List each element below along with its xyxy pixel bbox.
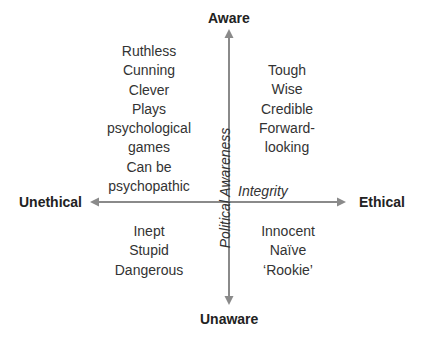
- quadrant-top-right: Tough Wise Credible Forward- looking: [217, 61, 357, 157]
- trait-text: Dangerous: [79, 261, 219, 280]
- trait-text: looking: [217, 138, 357, 157]
- trait-text: Cunning: [79, 61, 219, 80]
- trait-text: Ruthless: [79, 42, 219, 61]
- trait-text: psychopathic: [79, 177, 219, 196]
- pole-aware: Aware: [208, 10, 250, 26]
- trait-text: Stupid: [79, 241, 219, 260]
- left-arrow-icon: [90, 198, 99, 207]
- trait-text: Naïve: [218, 241, 358, 260]
- trait-text: Plays: [79, 100, 219, 119]
- down-arrow-icon: [225, 296, 234, 305]
- pole-ethical: Ethical: [359, 194, 405, 210]
- quadrant-bottom-right: Innocent Naïve ‘Rookie’: [218, 222, 358, 280]
- trait-text: Credible: [217, 100, 357, 119]
- quadrant-bottom-left: Inept Stupid Dangerous: [79, 222, 219, 280]
- trait-text: Inept: [79, 222, 219, 241]
- trait-text: Clever: [79, 81, 219, 100]
- trait-text: games: [79, 138, 219, 157]
- trait-text: Innocent: [218, 222, 358, 241]
- trait-text: psychological: [79, 119, 219, 138]
- trait-text: Forward-: [217, 119, 357, 138]
- up-arrow-icon: [225, 29, 234, 38]
- trait-text: Can be: [79, 158, 219, 177]
- trait-text: ‘Rookie’: [218, 261, 358, 280]
- axis-label-integrity: Integrity: [238, 183, 288, 199]
- right-arrow-icon: [337, 198, 346, 207]
- quadrant-top-left: Ruthless Cunning Clever Plays psychologi…: [79, 42, 219, 196]
- pole-unethical: Unethical: [19, 194, 82, 210]
- trait-text: Wise: [217, 80, 357, 99]
- trait-text: Tough: [217, 61, 357, 80]
- pole-unaware: Unaware: [200, 311, 258, 327]
